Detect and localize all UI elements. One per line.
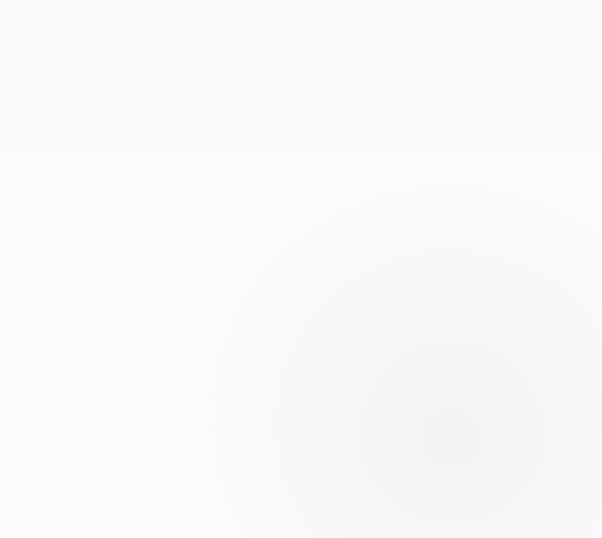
data-label-2002: 18 bbox=[393, 351, 415, 371]
gridline-55 bbox=[100, 68, 602, 70]
gridline-15 bbox=[100, 362, 602, 364]
y-tick-label-0: 0 bbox=[38, 461, 84, 481]
y-tick-mark-5 bbox=[92, 434, 103, 436]
y-tick-mark-45 bbox=[92, 140, 103, 142]
gridline-25 bbox=[100, 288, 602, 290]
gridline-0-baseline bbox=[100, 470, 602, 472]
y-tick-label-55: 55 bbox=[38, 58, 84, 78]
x-axis-title: Year bbox=[100, 512, 602, 534]
data-label-1998: 22 bbox=[299, 281, 321, 301]
y-tick-mark-50 bbox=[92, 103, 103, 105]
y-tick-label-5: 5 bbox=[38, 425, 84, 445]
y-tick-mark-20 bbox=[92, 324, 103, 326]
data-label-1990: 12 bbox=[124, 350, 146, 370]
chart-title-line-2: near Sherman Airport bbox=[0, 29, 602, 50]
gridline-30 bbox=[100, 251, 602, 253]
gridline-10 bbox=[100, 398, 602, 400]
data-label-2006: 30 bbox=[497, 241, 519, 261]
y-tick-mark-0 bbox=[92, 470, 103, 472]
data-label-2010: 50 bbox=[558, 74, 580, 94]
y-tick-mark-40 bbox=[92, 177, 103, 179]
gridline-35 bbox=[100, 215, 602, 217]
y-tick-label-50: 50 bbox=[38, 94, 84, 114]
x-tick-mark-1990 bbox=[137, 472, 139, 485]
y-tick-mark-15 bbox=[92, 361, 103, 363]
y-tick-mark-10 bbox=[92, 397, 103, 399]
y-tick-mark-25 bbox=[92, 287, 103, 289]
gridline-45 bbox=[100, 141, 602, 143]
chart-title-line-1: Collisions between Birds and Planes bbox=[0, 8, 602, 29]
x-tick-mark-1994 bbox=[224, 472, 226, 485]
x-tick-mark-2006 bbox=[485, 472, 487, 485]
y-tick-mark-55 bbox=[92, 67, 103, 69]
chart-title: Collisions between Birds and Planes near… bbox=[0, 8, 602, 50]
x-tick-label-1994: 1994 bbox=[180, 486, 270, 508]
x-tick-label-1998: 1998 bbox=[267, 486, 357, 508]
gridline-5 bbox=[100, 435, 602, 437]
plot-area bbox=[100, 68, 602, 472]
y-axis-spine bbox=[100, 68, 102, 474]
y-tick-mark-35 bbox=[92, 214, 103, 216]
x-tick-label-2010: 2010 bbox=[528, 486, 602, 508]
x-tick-label-2002: 2002 bbox=[354, 486, 444, 508]
data-label-1994: 15 bbox=[211, 331, 233, 351]
x-tick-label-1990: 1990 bbox=[93, 486, 183, 508]
gridline-20 bbox=[100, 325, 602, 327]
x-tick-mark-2010 bbox=[572, 472, 574, 485]
y-axis-title: Number of Collisions bbox=[33, 137, 55, 417]
x-tick-label-2006: 2006 bbox=[441, 486, 531, 508]
gridline-40 bbox=[100, 178, 602, 180]
y-tick-mark-30 bbox=[92, 250, 103, 252]
x-tick-mark-1998 bbox=[311, 472, 313, 485]
x-tick-mark-2002 bbox=[398, 472, 400, 485]
plot-background-texture bbox=[100, 68, 602, 472]
gridline-50 bbox=[100, 104, 602, 106]
